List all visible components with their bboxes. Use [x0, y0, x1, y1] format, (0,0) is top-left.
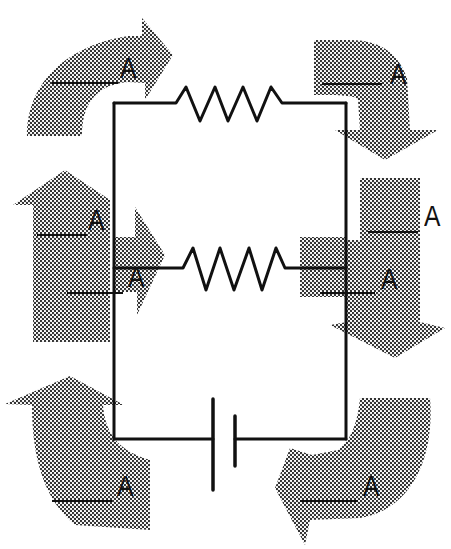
unit-label-mid-left-upper: A — [88, 205, 104, 235]
unit-label-mid-right-lower: A — [381, 264, 397, 294]
arrow-bottom-right — [275, 398, 431, 545]
current-blank-mid-right-lower[interactable] — [320, 292, 375, 294]
current-blank-bottom-left[interactable] — [52, 500, 112, 502]
unit-label-bottom-left: A — [117, 471, 133, 501]
current-blank-mid-left-lower[interactable] — [67, 292, 123, 294]
arrow-top-left — [27, 18, 173, 136]
current-blank-top-left[interactable] — [52, 82, 118, 84]
unit-label-mid-left-lower: A — [128, 262, 144, 292]
circuit-diagram: A A A A A A A A — [0, 0, 451, 549]
arrow-mid-left-up — [13, 170, 110, 342]
unit-label-top-left: A — [120, 53, 136, 83]
current-blank-top-right[interactable] — [322, 83, 382, 85]
unit-label-top-right: A — [390, 59, 406, 89]
current-blank-bottom-right[interactable] — [300, 500, 358, 502]
battery-icon — [213, 399, 235, 490]
unit-label-bottom-right: A — [363, 471, 379, 501]
current-blank-mid-left-upper[interactable] — [37, 234, 87, 236]
arrow-top-right — [314, 40, 438, 160]
arrow-bottom-left — [5, 376, 150, 530]
unit-label-mid-right-upper: A — [424, 201, 440, 231]
current-blank-mid-right-upper[interactable] — [368, 231, 418, 233]
